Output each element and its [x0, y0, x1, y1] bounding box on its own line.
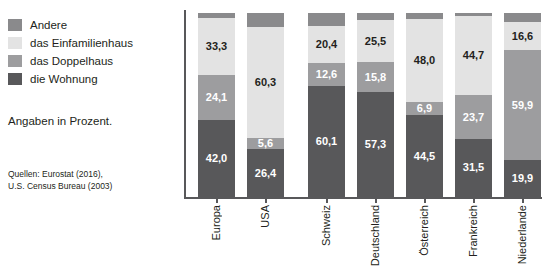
bar-segment-niederlande-einfamilienhaus[interactable]: 16,6 [504, 22, 541, 50]
bar-segment-österreich-doppelhaus[interactable]: 6,9 [406, 102, 443, 115]
bar-value-label: 33,3 [206, 41, 227, 52]
sources-line-1: Quellen: Eurostat (2016), [8, 168, 112, 180]
bar-segment-frankreich-doppelhaus[interactable]: 23,7 [455, 95, 492, 139]
bar-value-label: 25,5 [365, 36, 386, 47]
sources-line-2: U.S. Census Bureau (2003) [8, 180, 112, 192]
stacked-bars-container: 33,324,142,060,35,626,420,412,660,125,51… [182, 13, 545, 197]
x-axis-label-europa: Europa [210, 205, 224, 240]
bar-value-label: 59,9 [512, 100, 533, 111]
bar-segment-niederlande-wohnung[interactable]: 19,9 [504, 160, 541, 197]
x-axis-label-usa: USA [259, 205, 273, 228]
bar-value-label: 20,4 [316, 39, 337, 50]
bar-segment-usa-andere[interactable] [247, 13, 284, 27]
bar-frankreich[interactable]: 44,723,731,5 [455, 13, 492, 197]
x-axis-line [184, 197, 542, 199]
bar-value-label: 19,9 [512, 173, 533, 184]
bar-value-label: 26,4 [255, 168, 276, 179]
bar-value-label: 24,1 [206, 92, 227, 103]
legend-item-wohnung[interactable]: die Wohnung [8, 70, 133, 87]
bar-value-label: 57,3 [365, 139, 386, 150]
chart-side-panel: Anderedas Einfamilienhausdas Doppelhausd… [0, 0, 182, 280]
x-axis-label-frankreich: Frankreich [467, 205, 481, 257]
legend-item-doppelhaus[interactable]: das Doppelhaus [8, 52, 133, 69]
sources-note: Quellen: Eurostat (2016), U.S. Census Bu… [8, 168, 112, 192]
bar-value-label: 31,5 [463, 162, 484, 173]
chart-legend: Anderedas Einfamilienhausdas Doppelhausd… [8, 16, 133, 88]
legend-label-andere: Andere [30, 19, 67, 31]
bar-value-label: 15,8 [365, 72, 386, 83]
bar-segment-usa-wohnung[interactable]: 26,4 [247, 149, 284, 198]
bar-segment-europa-wohnung[interactable]: 42,0 [198, 120, 235, 197]
bar-value-label: 6,9 [417, 103, 432, 114]
bar-niederlande[interactable]: 16,659,919,9 [504, 13, 541, 197]
x-axis-tick-schweiz [326, 199, 328, 203]
bar-deutschland[interactable]: 25,515,857,3 [357, 13, 394, 197]
bar-segment-europa-einfamilienhaus[interactable]: 33,3 [198, 18, 235, 76]
bar-value-label: 44,5 [414, 151, 435, 162]
bar-segment-deutschland-wohnung[interactable]: 57,3 [357, 92, 394, 197]
bar-segment-niederlande-doppelhaus[interactable]: 59,9 [504, 50, 541, 160]
bar-segment-schweiz-einfamilienhaus[interactable]: 20,4 [308, 26, 345, 64]
legend-item-einfamilienhaus[interactable]: das Einfamilienhaus [8, 34, 133, 51]
legend-swatch-andere [8, 19, 22, 31]
x-axis-tick-österreich [424, 199, 426, 203]
bar-value-label: 44,7 [463, 50, 484, 61]
bar-segment-deutschland-andere[interactable] [357, 13, 394, 20]
x-axis-tick-deutschland [375, 199, 377, 203]
bar-value-label: 16,6 [512, 31, 533, 42]
x-axis-label-österreich: Österreich [418, 205, 432, 256]
x-axis-tick-frankreich [473, 199, 475, 203]
x-axis-tick-niederlande [522, 199, 524, 203]
bar-value-label: 23,7 [463, 112, 484, 123]
x-axis-label-niederlande: Niederlande [516, 205, 530, 264]
bar-segment-frankreich-wohnung[interactable]: 31,5 [455, 139, 492, 197]
bar-segment-deutschland-doppelhaus[interactable]: 15,8 [357, 62, 394, 91]
legend-label-einfamilienhaus: das Einfamilienhaus [30, 37, 133, 49]
legend-item-andere[interactable]: Andere [8, 16, 133, 33]
bar-österreich[interactable]: 48,06,944,5 [406, 13, 443, 197]
legend-label-wohnung: die Wohnung [30, 73, 98, 85]
bar-segment-schweiz-andere[interactable] [308, 13, 345, 26]
legend-label-doppelhaus: das Doppelhaus [30, 55, 113, 67]
bar-value-label: 5,6 [258, 138, 273, 149]
bar-value-label: 42,0 [206, 153, 227, 164]
units-note: Angaben in Prozent. [8, 115, 112, 127]
bar-value-label: 60,1 [316, 136, 337, 147]
bar-europa[interactable]: 33,324,142,0 [198, 13, 235, 197]
x-axis-tick-usa [265, 199, 267, 203]
x-axis-label-deutschland: Deutschland [369, 205, 383, 266]
x-axis-tick-europa [216, 199, 218, 203]
bar-segment-schweiz-doppelhaus[interactable]: 12,6 [308, 63, 345, 86]
bar-segment-europa-doppelhaus[interactable]: 24,1 [198, 75, 235, 119]
bar-usa[interactable]: 60,35,626,4 [247, 13, 284, 197]
bar-schweiz[interactable]: 20,412,660,1 [308, 13, 345, 197]
legend-swatch-wohnung [8, 73, 22, 85]
bar-segment-deutschland-einfamilienhaus[interactable]: 25,5 [357, 20, 394, 63]
bar-value-label: 48,0 [414, 55, 435, 66]
x-axis-label-schweiz: Schweiz [320, 205, 334, 246]
bar-segment-niederlande-andere[interactable] [504, 13, 541, 22]
bar-value-label: 60,3 [255, 77, 276, 88]
bar-segment-usa-einfamilienhaus[interactable]: 60,3 [247, 27, 284, 138]
legend-swatch-doppelhaus [8, 55, 22, 67]
bar-segment-frankreich-einfamilienhaus[interactable]: 44,7 [455, 16, 492, 95]
bar-segment-österreich-einfamilienhaus[interactable]: 48,0 [406, 19, 443, 103]
bar-segment-österreich-wohnung[interactable]: 44,5 [406, 115, 443, 197]
chart-plot-area: 33,324,142,060,35,626,420,412,660,125,51… [182, 0, 545, 280]
bar-value-label: 12,6 [316, 69, 337, 80]
bar-segment-usa-doppelhaus[interactable]: 5,6 [247, 138, 284, 149]
legend-swatch-einfamilienhaus [8, 37, 22, 49]
bar-segment-schweiz-wohnung[interactable]: 60,1 [308, 86, 345, 197]
